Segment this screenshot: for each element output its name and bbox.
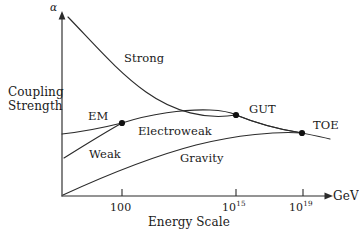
curve-label-electroweak: Electroweak [138, 125, 212, 138]
x-tick-label-1e19: 1019 [289, 202, 313, 214]
toe-point-dot [299, 130, 305, 136]
coupling-unification-figure: α Coupling Strength Strong EM Weak Elect… [0, 0, 359, 239]
y-axis-arrowhead [59, 11, 66, 20]
point-label-gut: GUT [249, 103, 276, 116]
x-tick-1e15-base: 10 [222, 201, 236, 214]
x-axis-arrowhead [325, 193, 334, 200]
toe-tail-curve [302, 133, 330, 139]
x-tick-1e19-exponent: 19 [303, 199, 312, 208]
strong-tail-after-gut [236, 115, 302, 133]
x-axis-title: Energy Scale [148, 216, 230, 229]
strong-curve [68, 17, 236, 116]
x-tick-label-100: 100 [110, 202, 131, 214]
axes-group [62, 17, 327, 196]
y-axis-title-line1: Coupling [8, 86, 64, 99]
y-axis-symbol: α [50, 2, 57, 14]
x-axis-unit-label: GeV [333, 190, 359, 203]
x-axis-ticks [122, 189, 303, 196]
curve-label-weak: Weak [89, 148, 121, 161]
curves-group [62, 17, 330, 195]
electroweak-point-dot [119, 120, 125, 126]
curve-label-em: EM [88, 110, 108, 123]
x-tick-1e15-exponent: 15 [236, 199, 245, 208]
curve-label-gravity: Gravity [180, 152, 224, 165]
gut-point-dot [233, 112, 239, 118]
gut-to-toe-curve [236, 115, 302, 133]
x-tick-label-1e15: 1015 [222, 202, 246, 214]
curve-label-strong: Strong [124, 52, 164, 65]
x-tick-1e19-base: 10 [289, 201, 303, 214]
y-axis-title-line2: Strength [8, 100, 63, 113]
point-label-toe: TOE [313, 119, 339, 132]
